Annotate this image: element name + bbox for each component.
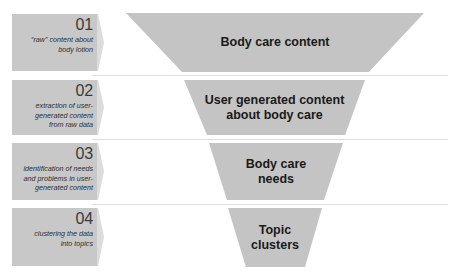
step-box-03: 03 identification of needs and problems …: [12, 143, 97, 200]
chevron-right-icon: [97, 208, 104, 266]
funnel-label-line: clusters: [251, 238, 299, 252]
step-description: identification of needs and problems in …: [14, 164, 93, 193]
funnel-label-line: Body care: [246, 157, 306, 171]
funnel-stage-label: Body care content: [220, 35, 329, 49]
step-box-02: 02 extraction of user- generated content…: [12, 80, 97, 135]
separator-line: [92, 204, 448, 205]
step-box-01: 01 “raw” content about body lotion: [12, 14, 97, 71]
separator-line: [92, 75, 448, 76]
funnel-label-line: about body care: [226, 108, 323, 122]
funnel-stage-3: Body care needs: [209, 143, 343, 200]
step-description-line: generated content: [35, 111, 93, 120]
funnel-stage-label: Body care needs: [246, 157, 306, 186]
step-number: 03: [14, 146, 93, 162]
chevron-right-icon: [97, 80, 104, 135]
funnel-label-line: needs: [258, 172, 294, 186]
funnel-label-line: User generated content: [205, 93, 345, 107]
funnel-diagram: 01 “raw” content about body lotion 02 ex…: [0, 0, 456, 280]
step-description-line: from raw data: [49, 120, 93, 129]
step-box-04: 04 clustering the data into topics: [12, 208, 97, 266]
step-description: extraction of user- generated content fr…: [14, 101, 93, 130]
step-description: “raw” content about body lotion: [14, 35, 93, 54]
funnel-stage-label: Topic clusters: [251, 223, 299, 252]
step-description-line: clustering the data: [34, 229, 93, 238]
funnel-stage-1: Body care content: [126, 13, 424, 72]
step-number: 01: [14, 17, 93, 33]
separator-line: [92, 139, 448, 140]
funnel-stage-4: Topic clusters: [228, 208, 322, 267]
chevron-right-icon: [97, 143, 104, 200]
step-description-line: “raw” content about: [31, 35, 93, 44]
step-description-line: body lotion: [58, 45, 93, 54]
chevron-right-icon: [97, 14, 104, 71]
funnel-stage-label: User generated content about body care: [205, 93, 345, 122]
funnel-label-line: Body care content: [220, 35, 329, 49]
funnel-label-line: Topic: [259, 223, 291, 237]
step-description-line: identification of needs: [23, 164, 93, 173]
funnel-stage-2: User generated content about body care: [184, 80, 365, 135]
step-description-line: into topics: [61, 239, 93, 248]
step-number: 02: [14, 83, 93, 99]
step-description: clustering the data into topics: [14, 229, 93, 248]
step-description-line: extraction of user-: [36, 101, 93, 110]
step-description-line: and problems in user-: [24, 174, 93, 183]
step-description-line: generated content: [35, 183, 93, 192]
step-number: 04: [14, 211, 93, 227]
